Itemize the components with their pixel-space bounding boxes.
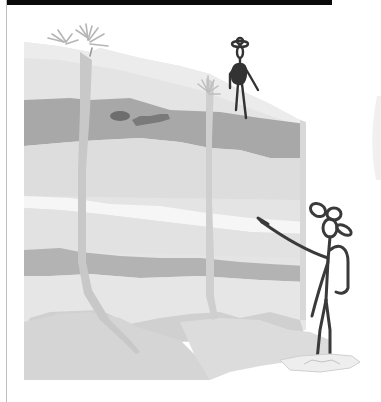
- cliff-illustration: [0, 0, 381, 402]
- hiker-hat-icon: [308, 201, 328, 219]
- cliff: [24, 42, 330, 380]
- distant-rock-edge: [372, 96, 381, 180]
- backpack: [330, 246, 348, 293]
